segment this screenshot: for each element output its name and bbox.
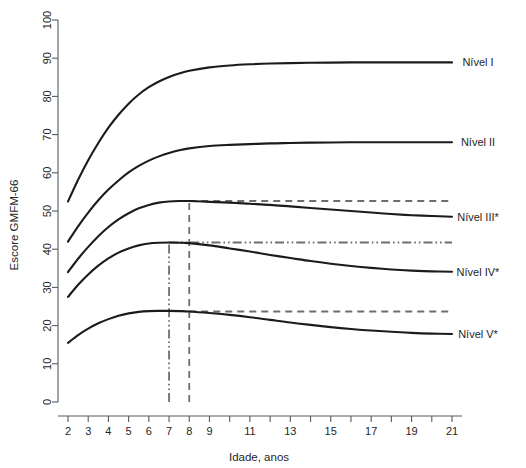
series-label-4: Nível IV* <box>457 266 501 278</box>
x-tick-label: 5 <box>126 425 132 437</box>
x-tick-label: 2 <box>65 425 71 437</box>
y-tick-label: 0 <box>41 399 53 405</box>
x-axis-title: Idade, anos <box>229 451 289 463</box>
y-tick-label: 60 <box>41 167 53 179</box>
series-label-3: Nível III* <box>457 211 499 223</box>
y-tick-label: 40 <box>41 243 53 255</box>
y-tick-label: 80 <box>41 90 53 102</box>
x-tick-label: 4 <box>105 425 111 437</box>
x-tick-label: 19 <box>405 425 417 437</box>
x-tick-label: 11 <box>244 425 255 437</box>
x-tick-label: 9 <box>206 425 212 437</box>
chart-text-layer: Escore GMFM-66 Idade, anos Nível INível … <box>0 0 526 468</box>
x-tick-label: 13 <box>284 425 296 437</box>
gmfm-motor-development-chart: Escore GMFM-66 Idade, anos Nível INível … <box>0 0 526 468</box>
y-tick-label: 100 <box>41 11 53 29</box>
x-tick-label: 21 <box>446 425 458 437</box>
series-label-2: Nível II <box>461 136 495 148</box>
x-tick-label: 17 <box>365 425 377 437</box>
series-label-1: Nível I <box>462 56 493 68</box>
y-axis-title: Escore GMFM-66 <box>8 180 20 271</box>
x-tick-label: 8 <box>186 425 192 437</box>
series-label-group: Nível INível IINível III*Nível IV*Nível … <box>457 56 501 340</box>
y-tick-label: 10 <box>41 358 53 370</box>
y-tick-label: 50 <box>41 205 53 217</box>
tick-label-group: 0102030405060708090100234567891113151719… <box>41 11 458 437</box>
y-tick-label: 30 <box>41 281 53 293</box>
series-label-5: Nível V* <box>458 328 498 340</box>
y-tick-label: 20 <box>41 319 53 331</box>
y-tick-label: 70 <box>41 128 53 140</box>
x-tick-label: 15 <box>325 425 337 437</box>
x-tick-label: 6 <box>146 425 152 437</box>
x-tick-label: 3 <box>85 425 91 437</box>
x-tick-label: 7 <box>166 425 172 437</box>
y-tick-label: 90 <box>41 52 53 64</box>
